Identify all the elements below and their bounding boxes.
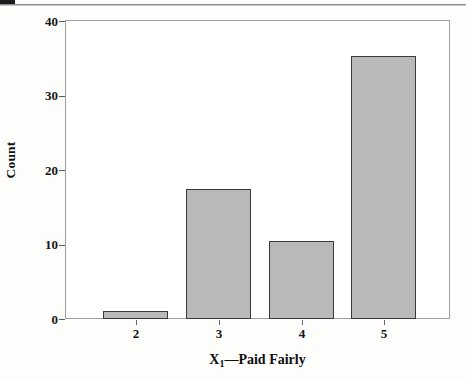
x-axis-title-subscript: 1	[219, 358, 224, 369]
y-axis-title: Count	[3, 130, 19, 190]
x-tick-label: 2	[116, 327, 156, 340]
bar	[269, 241, 334, 319]
x-axis-title-base: X	[209, 352, 219, 367]
x-tick-label: 4	[282, 327, 322, 340]
y-axis: 010203040	[0, 0, 58, 381]
x-tick-mark	[219, 320, 220, 325]
y-tick-label: 10	[8, 238, 58, 251]
x-tick-label: 5	[364, 327, 404, 340]
x-tick-label: 3	[199, 327, 239, 340]
plot-area	[66, 21, 449, 319]
x-tick-mark	[384, 320, 385, 325]
y-tick-mark	[59, 319, 65, 320]
y-tick-label: 30	[8, 89, 58, 102]
page-header-rule-secondary	[0, 5, 466, 6]
bar	[103, 311, 168, 319]
x-axis-title: X1—Paid Fairly	[65, 352, 450, 368]
y-tick-label: 0	[8, 313, 58, 326]
x-tick-mark	[302, 320, 303, 325]
bar	[351, 56, 416, 319]
x-axis-title-rest: —Paid Fairly	[224, 352, 305, 367]
x-tick-mark	[136, 320, 137, 325]
bar	[186, 189, 251, 319]
figure-container: 010203040 Count X1—Paid Fairly 2345	[0, 0, 466, 381]
y-tick-label: 40	[8, 15, 58, 28]
